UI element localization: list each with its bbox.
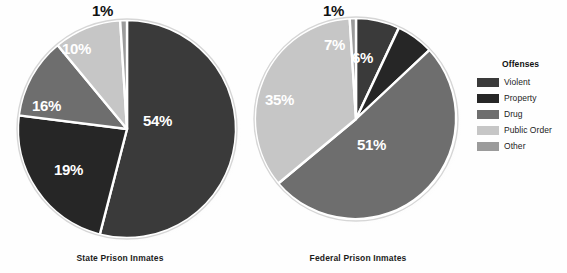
- federal-prison-pie-panel: 7% 6% 51% 35% 1% Federal Prison Inmates: [247, 0, 467, 273]
- legend-label-property: Property: [504, 93, 537, 103]
- legend-swatch-drug: [477, 110, 499, 119]
- legend-swatch-violent: [477, 78, 499, 87]
- federal-label-drug: 51%: [357, 137, 386, 152]
- legend-item-violent: Violent: [477, 74, 567, 90]
- legend-label-violent: Violent: [504, 77, 530, 87]
- federal-label-public-order: 35%: [265, 92, 294, 107]
- federal-label-violent: 7%: [324, 37, 345, 52]
- legend-label-drug: Drug: [504, 109, 523, 119]
- legend-swatch-other: [477, 142, 499, 151]
- pie-chart-figure: 54% 19% 16% 10% 1% State Prison Inmates: [0, 0, 567, 273]
- state-prison-pie-panel: 54% 19% 16% 10% 1% State Prison Inmates: [0, 0, 250, 273]
- legend-label-other: Other: [504, 141, 526, 151]
- federal-label-other: 1%: [323, 3, 344, 18]
- state-label-other: 1%: [92, 3, 113, 18]
- legend-swatch-property: [477, 94, 499, 103]
- federal-pie-area: 7% 6% 51% 35% 1%: [247, 0, 467, 245]
- state-label-public-order: 10%: [62, 41, 91, 56]
- legend-item-drug: Drug: [477, 106, 567, 122]
- legend: Offenses Violent Property Drug Public Or…: [477, 59, 567, 154]
- state-label-property: 19%: [54, 162, 83, 177]
- legend-item-property: Property: [477, 90, 567, 106]
- legend-item-public-order: Public Order: [477, 122, 567, 138]
- state-pie-svg: [8, 8, 248, 248]
- legend-title: Offenses: [502, 59, 567, 69]
- legend-item-other: Other: [477, 138, 567, 154]
- federal-pie-caption: Federal Prison Inmates: [248, 253, 468, 263]
- legend-label-public-order: Public Order: [504, 125, 552, 135]
- state-pie-area: 54% 19% 16% 10% 1%: [0, 0, 250, 245]
- state-label-drug: 16%: [32, 98, 61, 113]
- legend-swatch-public-order: [477, 126, 499, 135]
- state-pie-caption: State Prison Inmates: [0, 253, 245, 263]
- state-label-violent: 54%: [143, 113, 172, 128]
- federal-label-property: 6%: [352, 50, 373, 65]
